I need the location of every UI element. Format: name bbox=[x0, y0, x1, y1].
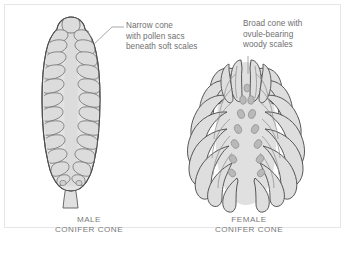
male-cone-axis bbox=[65, 24, 78, 186]
male-leader-line bbox=[93, 27, 124, 45]
annotation-female: Broad cone with ovule-bearing woody scal… bbox=[243, 19, 302, 51]
annotation-female-line2: ovule-bearing bbox=[243, 30, 302, 41]
caption-male-line1: MALE bbox=[22, 215, 156, 225]
caption-male-line2: CONIFER CONE bbox=[22, 225, 156, 235]
male-pollen-sac bbox=[76, 180, 82, 185]
annotation-male-line2: with pollen sacs bbox=[126, 32, 198, 43]
annotation-female-line3: woody scales bbox=[243, 40, 302, 51]
ovule bbox=[244, 84, 250, 92]
caption-female-line1: FEMALE bbox=[182, 215, 316, 225]
caption-female-line2: CONIFER CONE bbox=[182, 225, 316, 235]
annotation-male-line1: Narrow cone bbox=[126, 21, 198, 32]
conifer-cone-diagram: Narrow cone with pollen sacs beneath sof… bbox=[0, 0, 347, 256]
caption-male-conifer-cone: MALE CONIFER CONE bbox=[22, 215, 156, 236]
caption-female-conifer-cone: FEMALE CONIFER CONE bbox=[182, 215, 316, 236]
annotation-female-line1: Broad cone with bbox=[243, 19, 302, 30]
female-cone-figure bbox=[187, 60, 304, 212]
male-cone-figure bbox=[41, 16, 101, 208]
annotation-male-line3: beneath soft scales bbox=[126, 42, 198, 53]
male-pollen-sac bbox=[60, 180, 66, 185]
annotation-male: Narrow cone with pollen sacs beneath sof… bbox=[126, 21, 198, 53]
